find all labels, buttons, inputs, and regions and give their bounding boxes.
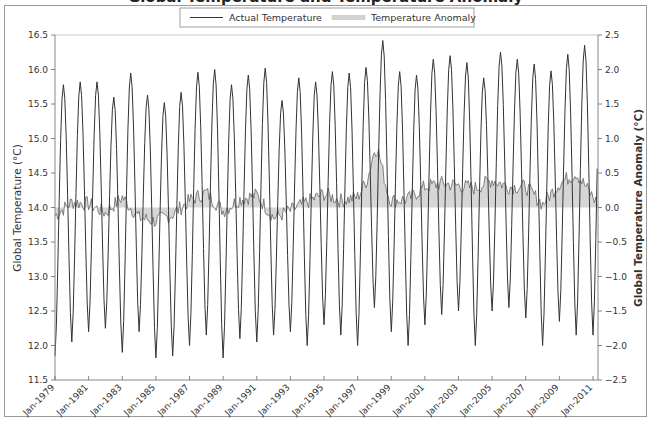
left-tick-label: 16.0 [28,65,48,75]
left-tick-label: 16.5 [28,30,48,40]
left-tick-label: 13.5 [28,237,48,247]
right-tick-label: 1.5 [605,99,619,109]
x-tick-label: Jan-1987 [155,382,191,418]
x-tick-label: Jan-2005 [457,382,493,418]
anomaly-area [55,149,597,227]
right-tick-label: −0.5 [605,237,627,247]
left-axis-label: Global Temperature (°C) [11,144,23,271]
right-tick-label: 2.5 [605,30,619,40]
left-tick-label: 13.0 [28,272,48,282]
x-tick-label: Jan-1989 [188,382,224,418]
left-tick-label: 14.0 [28,203,48,213]
right-tick-label: 1.0 [605,134,620,144]
left-tick-label: 12.5 [28,306,48,316]
legend-fill-icon [332,16,365,20]
x-tick-label: Jan-1991 [222,382,258,418]
x-tick-label: Jan-1979 [20,382,56,418]
left-tick-label: 15.5 [28,99,48,109]
legend-label-actual: Actual Temperature [229,12,322,23]
left-tick-label: 14.5 [28,168,48,178]
x-tick-label: Jan-1981 [54,382,90,418]
right-axis-label: Global Temperature Anomaly (°C) [632,109,644,307]
left-tick-label: 12.0 [28,341,48,351]
x-tick-label: Jan-2001 [390,382,426,418]
x-tick-label: Jan-2007 [491,382,527,418]
right-tick-label: 2.0 [605,65,620,75]
x-tick-label: Jan-1995 [289,382,325,418]
x-tick-label: Jan-2003 [424,382,460,418]
x-tick-label: Jan-2011 [558,382,594,418]
x-tick-label: Jan-1997 [323,382,359,418]
left-tick-label: 15.0 [28,134,48,144]
x-tick-label: Jan-1985 [121,382,157,418]
right-tick-label: 0.5 [605,168,619,178]
x-tick-label: Jan-1983 [88,382,124,418]
right-tick-label: −2.0 [605,341,627,351]
legend-label-anomaly: Temperature Anomaly [370,12,476,23]
right-tick-label: −1.0 [605,272,627,282]
x-tick-label: Jan-1993 [256,382,292,418]
x-tick-label: Jan-2009 [525,382,561,418]
right-tick-label: 0.0 [605,203,620,213]
right-tick-label: −2.5 [605,375,627,385]
x-tick-label: Jan-1999 [357,382,393,418]
right-tick-label: −1.5 [605,306,627,316]
left-tick-label: 11.5 [28,375,48,385]
legend: Actual Temperature Temperature Anomaly [180,8,476,27]
chart-canvas: 11.512.012.513.013.514.014.515.015.516.0… [0,0,651,421]
